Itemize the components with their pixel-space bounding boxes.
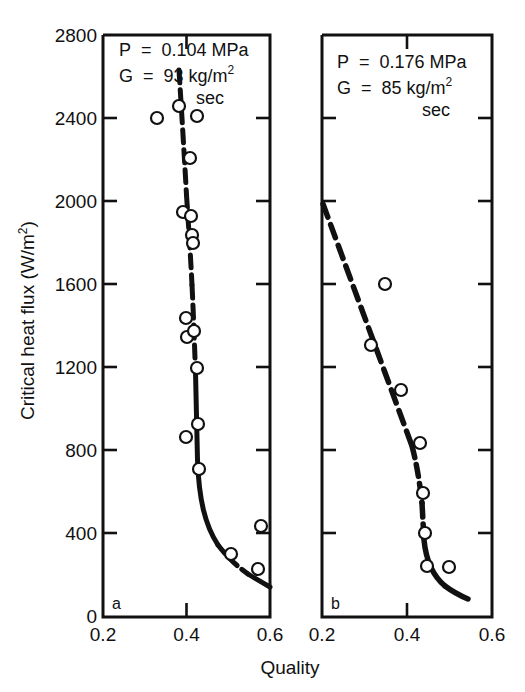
panel-b-annot-g-superscript: 2 (446, 75, 453, 89)
data-point (255, 520, 267, 532)
panel-a-xtick-label-0.2: 0.2 (90, 624, 116, 645)
data-point (192, 418, 204, 430)
panel-a-annot-g-label: G (119, 66, 133, 86)
panel-b-annot-sec: sec (422, 100, 450, 120)
panel-b: P=0.176 MPa G=85 kg/m2 sec (309, 35, 505, 645)
panel-b-xtick-label-0.4: 0.4 (394, 624, 421, 645)
data-point (252, 563, 264, 575)
panel-b-xtick-label-0.6: 0.6 (479, 624, 505, 645)
data-point (191, 362, 203, 374)
y-tick-label-2400: 2400 (55, 108, 97, 129)
panel-a-annot-g-value: 93 kg/m (164, 66, 228, 86)
panel-b-xtick-label-0.2: 0.2 (309, 624, 335, 645)
chart-svg: Critical heat flux (W/m2) 2800 2400 2000… (0, 0, 525, 692)
data-point (443, 561, 455, 573)
data-point (414, 437, 426, 449)
x-axis-title: Quality (260, 657, 320, 678)
panel-b-annot-p-label: P (337, 52, 349, 72)
panel-a-curve-dashed-top (179, 70, 187, 195)
svg-text:P=0.176 MPa: P=0.176 MPa (337, 52, 468, 72)
data-point (193, 463, 205, 475)
panel-a-annot-p-value: 0.104 MPa (162, 40, 250, 60)
svg-text:Critical heat flux (W/m2): Critical heat flux (W/m2) (16, 221, 38, 420)
panel-b-annot-g-label: G (337, 78, 351, 98)
data-point (365, 339, 377, 351)
data-point (185, 210, 197, 222)
panel-a-data-points (151, 100, 267, 575)
y-tick-labels: 2800 2400 2000 1600 1200 800 400 0 (55, 25, 97, 627)
panel-a-annot-sec: sec (196, 88, 224, 108)
data-point (379, 278, 391, 290)
data-point (417, 487, 429, 499)
data-point (151, 112, 163, 124)
panel-b-letter: b (331, 595, 340, 612)
figure-container: Critical heat flux (W/m2) 2800 2400 2000… (0, 0, 525, 692)
data-point (173, 100, 185, 112)
panel-b-y-ticks (322, 118, 492, 533)
panel-b-annot-p-eq: = (359, 52, 370, 72)
svg-text:P=0.104 MPa: P=0.104 MPa (119, 40, 250, 60)
panel-a-x-tick-labels: 0.2 0.4 0.6 (90, 624, 283, 645)
svg-text:G=85 kg/m2: G=85 kg/m2 (337, 75, 453, 98)
panel-a-curve-solid-vertical (196, 372, 198, 460)
panel-b-annot-g-value: 85 kg/m (382, 78, 446, 98)
y-tick-label-800: 800 (65, 440, 97, 461)
y-axis-title: Critical heat flux (W/m2) (16, 221, 38, 420)
data-point (187, 237, 199, 249)
panel-a-annotation: P=0.104 MPa G=93 kg/m2 sec (119, 40, 250, 108)
data-point (421, 560, 433, 572)
panel-a-annot-g-eq: = (143, 66, 154, 86)
y-tick-label-1600: 1600 (55, 274, 97, 295)
panel-a-annot-p-eq: = (141, 40, 152, 60)
panel-a-xtick-label-0.6: 0.6 (257, 624, 283, 645)
panel-b-annot-p-value: 0.176 MPa (380, 52, 468, 72)
data-point (395, 384, 407, 396)
panel-b-trend-curve (323, 204, 468, 599)
y-axis-title-text: Critical heat flux (W/m (17, 234, 38, 420)
panel-b-data-points (365, 278, 455, 573)
panel-b-annot-g-eq: = (361, 78, 372, 98)
data-point (191, 110, 203, 122)
data-point (180, 312, 192, 324)
y-tick-label-400: 400 (65, 523, 97, 544)
panel-a-letter: a (112, 595, 121, 612)
panel-b-annotation: P=0.176 MPa G=85 kg/m2 sec (337, 52, 468, 120)
y-tick-label-2800: 2800 (55, 25, 97, 46)
panel-a-xtick-label-0.4: 0.4 (173, 624, 200, 645)
data-point (180, 431, 192, 443)
data-point (188, 325, 200, 337)
y-tick-label-1200: 1200 (55, 357, 97, 378)
panel-b-curve-dashed-diagonal (323, 204, 412, 446)
data-point (225, 548, 237, 560)
panel-b-frame (322, 35, 492, 617)
panel-b-x-tick-labels: 0.2 0.4 0.6 (309, 624, 505, 645)
y-axis-title-close: ) (17, 221, 38, 227)
panel-a-frame (103, 35, 270, 617)
panel-a-annot-g-superscript: 2 (228, 63, 235, 77)
y-tick-label-2000: 2000 (55, 191, 97, 212)
data-point (184, 152, 196, 164)
panel-b-curve-solid-tail (445, 586, 468, 599)
panel-a: P=0.104 MPa G=93 kg/m2 sec (90, 35, 283, 645)
panel-a-annot-p-label: P (119, 40, 131, 60)
data-point (419, 527, 431, 539)
